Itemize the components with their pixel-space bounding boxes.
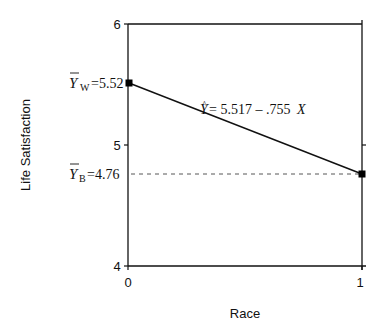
yb-subscript: B	[79, 173, 86, 184]
ytick-label-5: 5	[113, 138, 120, 153]
yw-value: =5.52	[91, 76, 123, 91]
annotation-y-white: Y W =5.52	[69, 73, 123, 93]
xtick-label-1: 1	[356, 275, 363, 290]
regression-line	[129, 83, 362, 174]
plot-frame	[128, 20, 366, 270]
yb-symbol: Y	[69, 166, 79, 182]
annotation-y-black: Y B =4.76	[69, 164, 119, 184]
eq-variable: X	[296, 102, 306, 117]
yw-symbol: Y	[69, 75, 79, 91]
ytick-label-4: 4	[113, 259, 120, 274]
marker-black-mean	[359, 171, 366, 178]
xtick-label-0: 0	[124, 275, 131, 290]
x-axis-label: Race	[230, 306, 260, 321]
marker-white-mean	[126, 80, 133, 87]
ticks	[124, 24, 366, 270]
yw-subscript: W	[80, 82, 90, 93]
yb-value: =4.76	[87, 167, 119, 182]
chart: 6 5 4 0 1 Y W =5.52 Y B =4.76 ^ Y = 5.51…	[0, 0, 383, 325]
y-axis-label: Life Satisfaction	[18, 99, 33, 191]
eq-body: = 5.517 – .755	[209, 102, 290, 117]
ytick-label-6: 6	[113, 17, 120, 32]
regression-equation: ^ Y = 5.517 – .755 X	[200, 99, 306, 117]
